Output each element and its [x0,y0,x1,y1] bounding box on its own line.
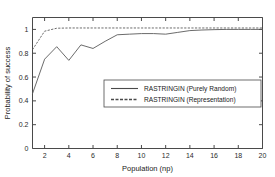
x-tick-label: 16 [210,152,218,159]
y-tick-label: 1 [25,26,29,33]
x-axis-tick-labels: 2468101214161820 [43,152,267,159]
x-tick-label: 6 [91,152,95,159]
x-axis-title: Population (np) [122,164,173,173]
x-tick-label: 12 [162,152,170,159]
x-tick-label: 10 [138,152,146,159]
legend-label-representation: RASTRINGIN (Representation) [144,96,236,104]
x-tick-label: 4 [67,152,71,159]
x-tick-label: 8 [115,152,119,159]
chart-figure: 00.20.40.60.81 2468101214161820 RASTRING… [0,0,275,177]
y-tick-label: 0.4 [19,97,29,104]
x-tick-label: 18 [234,152,242,159]
chart-legend: RASTRINGIN (Purely Random) RASTRINGIN (R… [104,80,261,107]
x-tick-label: 14 [186,152,194,159]
y-axis-tick-labels: 00.20.40.60.81 [19,26,29,152]
y-tick-label: 0.6 [19,74,29,81]
x-tick-label: 20 [259,152,267,159]
y-tick-label: 0.2 [19,121,29,128]
probability-of-success-line-chart: 00.20.40.60.81 2468101214161820 RASTRING… [0,0,275,177]
x-tick-label: 2 [43,152,47,159]
legend-label-purely-random: RASTRINGIN (Purely Random) [144,85,236,93]
y-tick-label: 0.8 [19,50,29,57]
y-tick-label: 0 [25,145,29,152]
y-axis-title: Probability of success [3,46,12,119]
series-line-representation [33,28,263,50]
